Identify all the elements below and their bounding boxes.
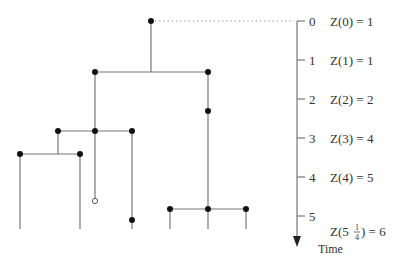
population-count: Z(2) = 2 bbox=[330, 92, 373, 107]
tick-label: 1 bbox=[309, 53, 316, 68]
svg-text:Z(5: Z(5 bbox=[330, 224, 349, 239]
branching-tree-diagram: 0 1 2 3 4 5 Z(0) = 1 Z(1) = 1 Z(2) = 2 Z… bbox=[0, 0, 398, 267]
tick-label: 0 bbox=[309, 14, 316, 29]
tree-edges bbox=[20, 21, 246, 229]
node bbox=[129, 128, 135, 134]
population-count: Z(1) = 1 bbox=[330, 53, 373, 68]
population-count: Z(0) = 1 bbox=[330, 14, 373, 29]
node bbox=[205, 108, 211, 114]
node bbox=[92, 128, 98, 134]
population-count-final: Z(5 1 4 ) = 6 bbox=[330, 223, 386, 242]
node bbox=[205, 206, 211, 212]
node-extinct bbox=[92, 198, 97, 203]
time-axis: 0 1 2 3 4 5 Z(0) = 1 Z(1) = 1 Z(2) = 2 Z… bbox=[293, 14, 386, 256]
node bbox=[55, 128, 61, 134]
node bbox=[92, 69, 98, 75]
population-count: Z(4) = 5 bbox=[330, 170, 373, 185]
node bbox=[205, 69, 211, 75]
node bbox=[243, 206, 249, 212]
svg-text:4: 4 bbox=[355, 233, 359, 242]
tick-label: 4 bbox=[309, 170, 316, 185]
population-count: Z(3) = 4 bbox=[330, 131, 374, 146]
axis-title: Time bbox=[318, 242, 343, 256]
node bbox=[77, 151, 83, 157]
tick-label: 5 bbox=[309, 209, 316, 224]
arrow-down-icon bbox=[293, 236, 301, 247]
tick-label: 2 bbox=[309, 92, 316, 107]
svg-text:) = 6: ) = 6 bbox=[361, 224, 386, 239]
node bbox=[167, 206, 173, 212]
node bbox=[17, 151, 23, 157]
node-root bbox=[148, 18, 154, 24]
node bbox=[129, 217, 135, 223]
tick-label: 3 bbox=[309, 131, 316, 146]
tree-nodes bbox=[17, 18, 249, 223]
svg-text:1: 1 bbox=[355, 223, 359, 232]
